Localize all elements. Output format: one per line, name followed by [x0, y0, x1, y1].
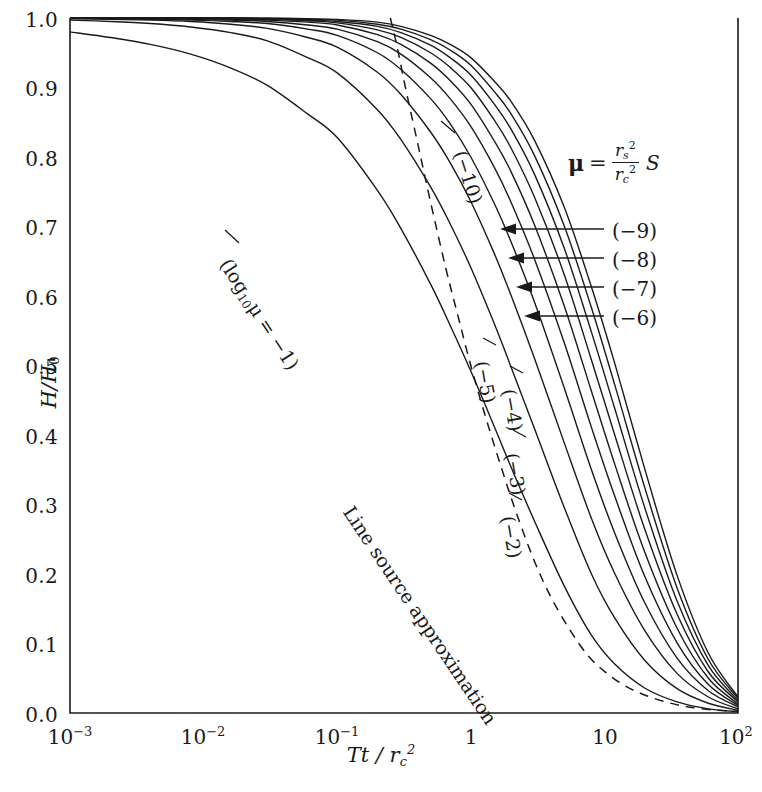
- equals-sign: =: [589, 151, 607, 175]
- leader-arrow-9: [500, 224, 604, 235]
- y-tick-label: 0.2: [0, 564, 58, 588]
- curve-label-minus7: (−7): [612, 277, 657, 301]
- x-tick-exponent: −1: [340, 724, 359, 739]
- mu-symbol: μ: [568, 150, 584, 176]
- denominator-sup: 2: [629, 163, 636, 176]
- fraction-denominator: rc2: [612, 163, 639, 185]
- x-axis-title-sup: 2: [407, 742, 415, 757]
- y-axis-title-text: H/H: [37, 365, 61, 409]
- y-tick-label: 0.6: [0, 286, 58, 310]
- denominator-var: r: [615, 164, 623, 184]
- numerator-var: r: [615, 140, 623, 160]
- leader-arrow-6: [524, 311, 604, 322]
- y-axis-title: H/H0: [37, 328, 62, 438]
- leader-arrow-8: [508, 253, 604, 264]
- x-tick-exponent: −2: [206, 724, 225, 739]
- y-tick-label: 0.8: [0, 147, 58, 171]
- mu-formula-annotation: μ = rs2 rc2 S: [568, 140, 660, 185]
- x-axis-title-text: Tt / r: [347, 743, 400, 767]
- label-tick: [225, 230, 239, 243]
- x-tick-exponent: 2: [745, 724, 753, 739]
- figure-container: 1.0 0.9 0.8 0.7 0.6 0.5 0.4 0.3 0.2 0.1 …: [0, 0, 762, 792]
- curve-label-minus6: (−6): [612, 306, 657, 330]
- chart-canvas: [0, 0, 762, 792]
- x-axis-title-sub: c: [400, 754, 407, 769]
- label-tick: [483, 338, 496, 345]
- leader-lines: [225, 121, 604, 500]
- x-axis-title: Tt / rc2: [0, 742, 762, 769]
- storativity-factor: S: [646, 151, 660, 175]
- y-tick-label: 0.1: [0, 633, 58, 657]
- y-tick-label: 0.9: [0, 77, 58, 101]
- y-tick-label: 0.3: [0, 494, 58, 518]
- numerator-sup: 2: [629, 139, 636, 152]
- curve-label-minus9: (−9): [612, 219, 657, 243]
- fraction-numerator: rs2: [612, 140, 639, 163]
- x-tick-exponent: −3: [73, 724, 92, 739]
- curve-label-minus8: (−8): [612, 248, 657, 272]
- y-tick-label: 0.7: [0, 216, 58, 240]
- ratio-fraction: rs2 rc2: [612, 140, 639, 185]
- y-axis-title-sub: 0: [47, 357, 62, 365]
- y-tick-label: 1.0: [0, 8, 58, 32]
